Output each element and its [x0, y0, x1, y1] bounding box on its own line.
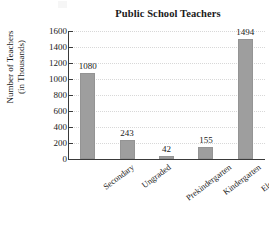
y-axis-tick-label: 1600 — [33, 27, 67, 36]
gridline — [68, 95, 265, 97]
chart-title: Public School Teachers — [68, 8, 268, 19]
y-axis-tick — [69, 127, 73, 128]
bar-value-label: 42 — [147, 145, 187, 154]
y-axis-tick-label: 600 — [33, 107, 67, 116]
y-axis-title: Number of Teachers (in Thousands) — [5, 7, 35, 127]
y-axis-tick-label: 1200 — [33, 59, 67, 68]
y-axis-tick — [69, 159, 73, 160]
y-axis-tick — [69, 31, 73, 32]
y-axis-tick — [69, 95, 73, 96]
bar-value-label: 155 — [186, 136, 226, 145]
bar — [238, 39, 253, 159]
gridline — [68, 111, 265, 113]
bar-value-label: 243 — [107, 129, 147, 138]
gridline — [68, 127, 265, 129]
y-axis-tick-label: 1000 — [33, 75, 67, 84]
y-axis-tick-label: 400 — [33, 123, 67, 132]
y-axis-title-line-2: (in Thousands) — [16, 7, 27, 127]
bar-chart: Public School Teachers Number of Teacher… — [0, 0, 269, 230]
y-axis-tick-label: 0 — [33, 155, 67, 164]
x-axis-category-label: Prekindergarten — [183, 162, 232, 203]
scan-artifact — [58, 1, 67, 8]
plot-area — [68, 31, 265, 159]
y-axis-tick-label: 200 — [33, 139, 67, 148]
y-axis-tick — [69, 111, 73, 112]
bar-value-label: 1080 — [68, 62, 108, 71]
gridline — [68, 79, 265, 81]
bar-value-label: 1494 — [225, 28, 265, 37]
y-axis-tick-label: 1400 — [33, 43, 67, 52]
y-axis-tick — [69, 47, 73, 48]
bar — [80, 73, 95, 159]
y-axis-title-line-1: Number of Teachers — [5, 7, 16, 127]
y-axis-tick-label: 800 — [33, 91, 67, 100]
bar — [120, 140, 135, 159]
y-axis-tick — [69, 79, 73, 80]
bar — [198, 147, 213, 159]
bar — [159, 156, 174, 159]
y-axis-tick — [69, 143, 73, 144]
x-axis-category-label: Ungraded — [140, 162, 173, 190]
gridline — [68, 47, 265, 49]
x-axis-category-label: Secondary — [101, 162, 136, 192]
x-axis-line — [68, 159, 265, 160]
